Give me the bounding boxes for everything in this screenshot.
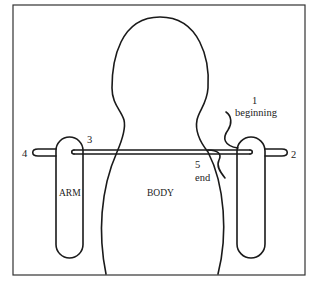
diagram-stage: 4 3 2 1 beginning 5 end ARM BODY: [0, 0, 315, 282]
label-step-5: 5: [195, 159, 200, 170]
thread-end-left: [72, 150, 74, 154]
label-body: BODY: [147, 188, 174, 198]
label-step-4: 4: [22, 148, 28, 159]
thread-arm-diagram: 4 3 2 1 beginning 5 end ARM BODY: [0, 0, 315, 282]
label-step-3: 3: [87, 134, 92, 145]
label-end: end: [195, 172, 211, 183]
thread-loop-left: [33, 149, 56, 156]
label-arm: ARM: [59, 188, 81, 198]
body-outline: [101, 17, 223, 274]
thread-main: [74, 150, 250, 154]
label-step-2: 2: [291, 149, 296, 160]
thread-end-right: [250, 150, 252, 154]
label-beginning: beginning: [235, 107, 278, 118]
thread-loop-right: [265, 149, 287, 156]
label-step-1: 1: [252, 95, 257, 106]
right-arm-outline: [237, 137, 265, 258]
